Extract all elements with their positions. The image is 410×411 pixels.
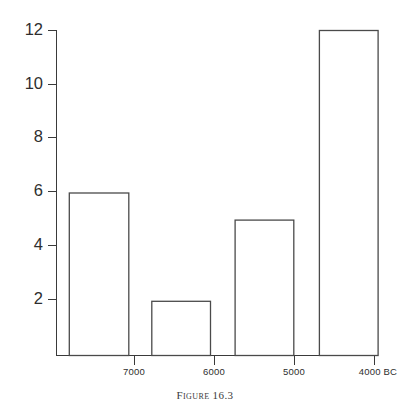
bar-2[interactable]	[152, 301, 211, 355]
y-tick-label-8: 8	[34, 127, 43, 145]
y-tick-label-12: 12	[25, 20, 43, 38]
y-tick-label-2: 2	[34, 289, 43, 307]
x-tick-label-5000: 5000	[283, 366, 305, 377]
y-tick-label-6: 6	[34, 181, 43, 199]
figure-caption: Figure 16.3	[0, 389, 410, 401]
bar-4[interactable]	[319, 31, 378, 356]
figure-container: 12 10 8 6 4 2 7000 6000 5000 4000 BC	[0, 0, 410, 411]
y-tick-label-10: 10	[25, 74, 43, 92]
x-tick-label-6000: 6000	[203, 366, 225, 377]
bar-3[interactable]	[235, 220, 294, 355]
y-tick-label-4: 4	[34, 235, 43, 253]
bar-1[interactable]	[69, 193, 129, 356]
bar-chart: 12 10 8 6 4 2 7000 6000 5000 4000 BC	[0, 0, 410, 411]
x-tick-label-7000: 7000	[123, 366, 145, 377]
x-tick-label-4000-bc: 4000 BC	[359, 366, 397, 377]
